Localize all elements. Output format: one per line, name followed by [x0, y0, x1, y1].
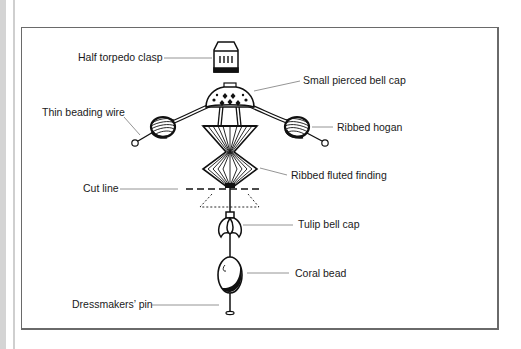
label-small-pierced-bell-cap: Small pierced bell cap	[303, 74, 406, 86]
ribbed-hogan-left-icon	[132, 117, 175, 146]
small-pierced-bell-cap-icon	[206, 83, 254, 107]
dressmakers-pin-head-icon	[226, 311, 234, 314]
label-dressmakers-pin: Dressmakers’ pin	[72, 298, 153, 310]
coral-bead-icon	[218, 257, 242, 293]
half-torpedo-clasp-icon	[214, 42, 238, 72]
label-half-torpedo-clasp: Half torpedo clasp	[78, 51, 163, 63]
ribbed-hogan-right-icon	[285, 117, 328, 146]
label-thin-beading-wire: Thin beading wire	[42, 106, 125, 118]
leader-small-pierced-bell-cap	[254, 81, 300, 91]
cut-line-icon	[186, 189, 262, 207]
label-cut-line: Cut line	[83, 182, 119, 194]
label-coral-bead: Coral bead	[295, 267, 346, 279]
label-tulip-bell-cap: Tulip bell cap	[298, 218, 359, 230]
label-ribbed-hogan: Ribbed hogan	[337, 121, 402, 133]
leader-thin-beading-wire	[124, 117, 140, 135]
tulip-bell-cap-icon	[219, 212, 242, 237]
leader-ribbed-fluted-finding	[260, 168, 287, 175]
label-ribbed-fluted-finding: Ribbed fluted finding	[291, 169, 387, 181]
ribbed-fluted-finding-icon	[203, 126, 257, 188]
